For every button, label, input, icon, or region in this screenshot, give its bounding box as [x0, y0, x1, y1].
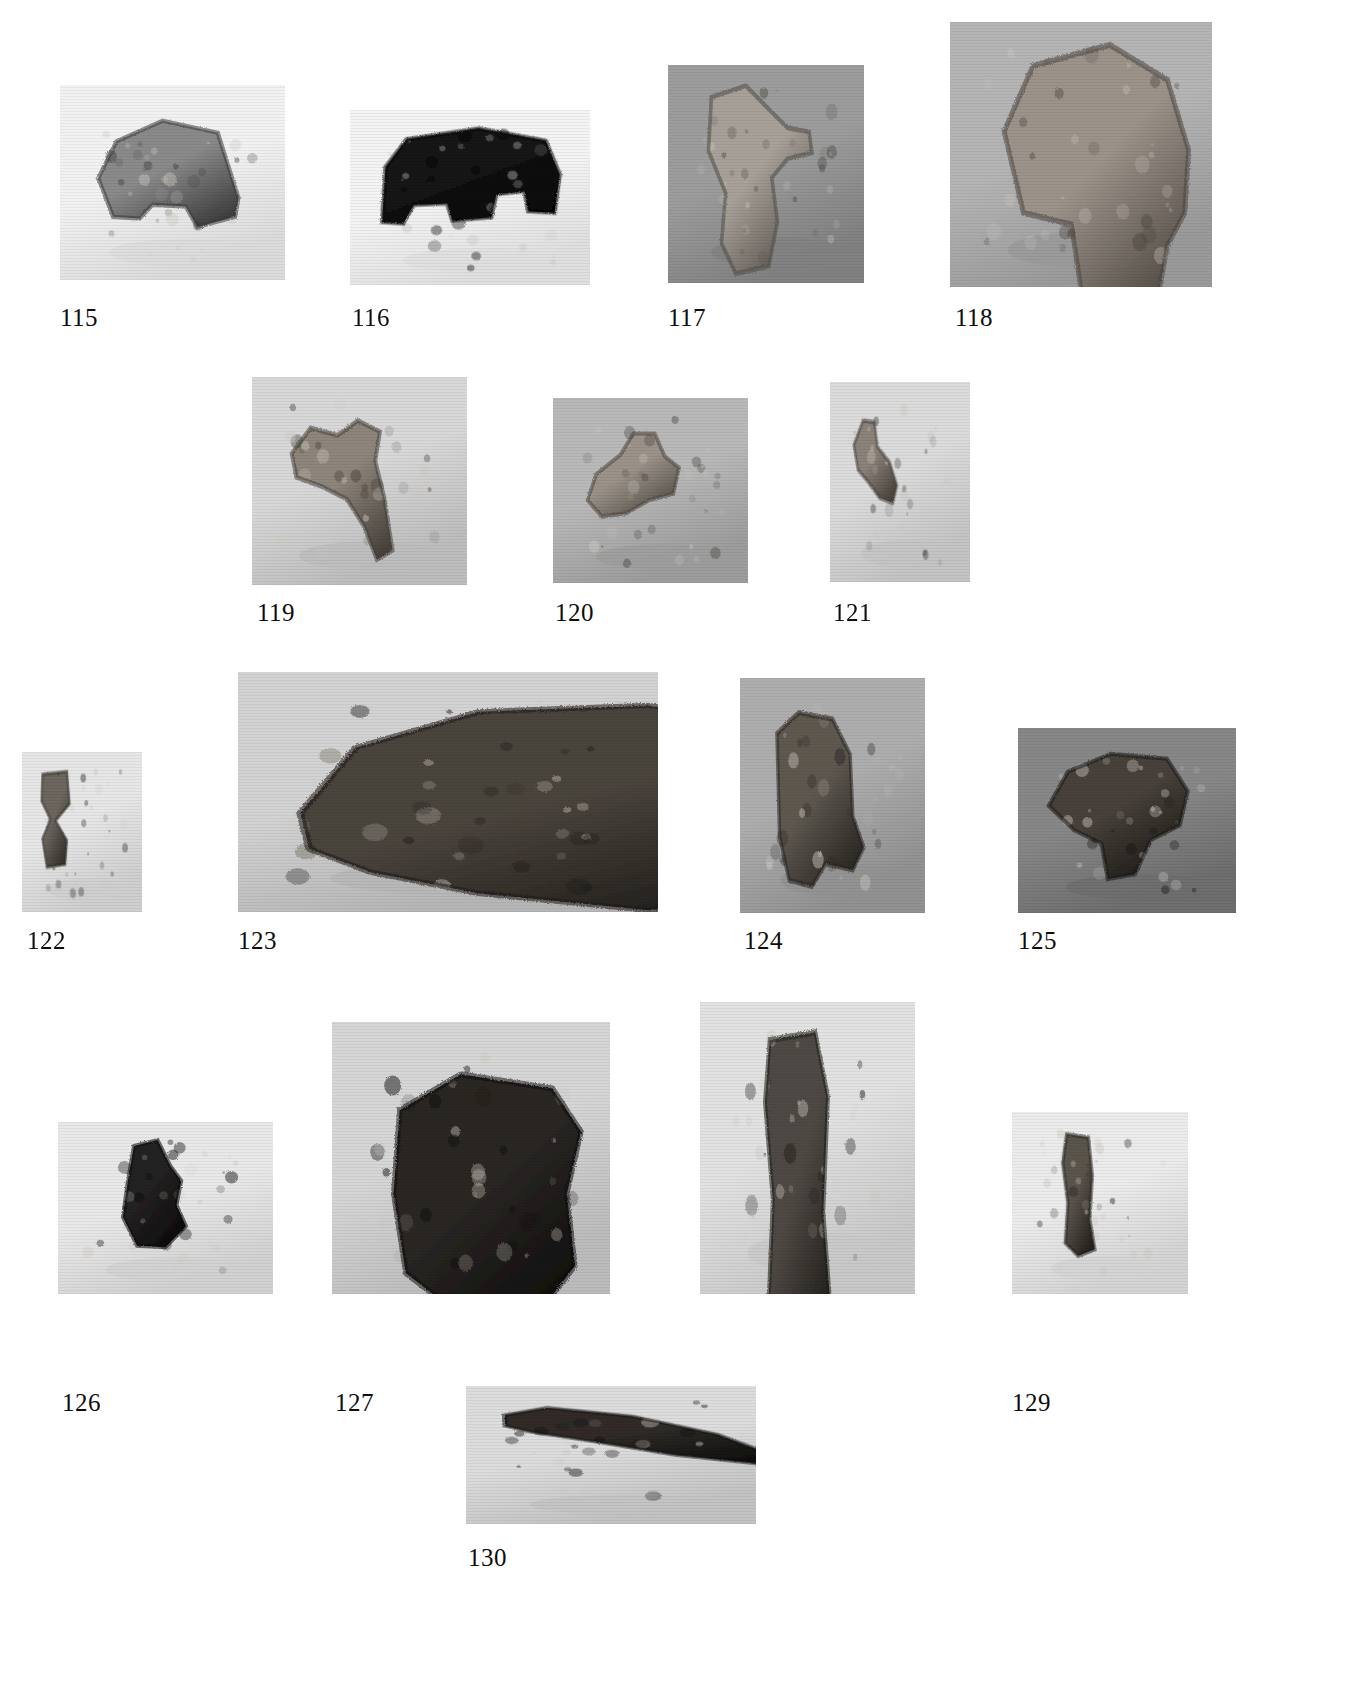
specimen-number-label: 123: [238, 928, 277, 953]
specimen-number-label: 126: [62, 1390, 101, 1415]
specimen-number-label: 119: [257, 600, 295, 625]
specimen-number-label: 118: [955, 305, 993, 330]
specimen-photo: [950, 22, 1212, 287]
specimen-number-label: 116: [352, 305, 390, 330]
specimen-number-label: 120: [555, 600, 594, 625]
specimen-photo: [553, 398, 748, 583]
specimen-number-label: 121: [833, 600, 872, 625]
specimen-photo: [252, 377, 467, 585]
specimen-number-label: 115: [60, 305, 98, 330]
specimen-plate: 1151161171181191201211221231241251261271…: [0, 0, 1350, 1687]
specimen-number-label: 127: [335, 1390, 374, 1415]
specimen-number-label: 124: [744, 928, 783, 953]
specimen-number-label: 129: [1012, 1390, 1051, 1415]
specimen-photo: [238, 672, 658, 912]
specimen-photo: [58, 1122, 273, 1294]
specimen-photo: [740, 678, 925, 913]
specimen-photo: [332, 1022, 610, 1294]
specimen-photo: [60, 85, 285, 280]
specimen-photo: [22, 752, 142, 912]
specimen-photo: [700, 1002, 915, 1294]
specimen-number-label: 130: [468, 1545, 507, 1570]
specimen-photo: [668, 65, 864, 283]
specimen-photo: [1012, 1112, 1188, 1294]
specimen-number-label: 122: [27, 928, 66, 953]
specimen-photo: [350, 110, 590, 285]
specimen-number-label: 117: [668, 305, 706, 330]
specimen-photo: [466, 1386, 756, 1524]
specimen-photo: [830, 382, 970, 582]
specimen-photo: [1018, 728, 1236, 913]
specimen-number-label: 125: [1018, 928, 1057, 953]
